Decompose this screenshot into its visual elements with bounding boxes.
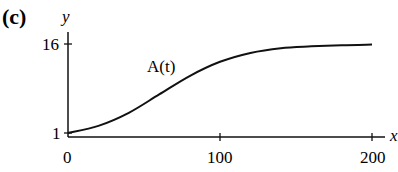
- curve-label: A(t): [147, 57, 175, 76]
- panel-label: (c): [2, 4, 26, 29]
- x-axis-label: x: [389, 126, 398, 145]
- y-tick-label-16: 16: [42, 35, 59, 54]
- x-tick-label-100: 100: [207, 148, 233, 167]
- logistic-chart: (c) y 16 1 x 0 100 200 A(t): [0, 0, 398, 172]
- y-axis-label: y: [60, 7, 70, 26]
- x-tick-label-200: 200: [360, 148, 386, 167]
- curve-a-of-t: [68, 45, 372, 133]
- x-tick-label-0: 0: [63, 148, 72, 167]
- y-tick-label-1: 1: [52, 124, 61, 143]
- curve-label-text: A(t): [147, 57, 175, 76]
